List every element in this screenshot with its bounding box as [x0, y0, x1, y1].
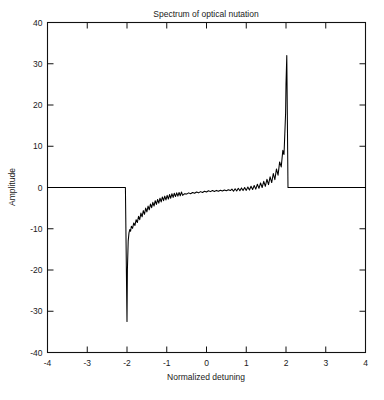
- figure-container: Spectrum of optical nutation -4-3-2-1012…: [0, 0, 384, 400]
- y-tick-label: -40: [30, 348, 43, 358]
- x-tick-label: 3: [323, 358, 328, 368]
- x-axis-label: Normalized detuning: [167, 372, 245, 382]
- x-tick-label: 4: [363, 358, 368, 368]
- y-tick-label: -20: [30, 265, 43, 275]
- x-tick-label: -2: [123, 358, 131, 368]
- chart-title: Spectrum of optical nutation: [153, 9, 259, 19]
- chart-background: [0, 0, 384, 400]
- y-tick-label: -10: [30, 224, 43, 234]
- x-tick-label: -1: [163, 358, 171, 368]
- y-tick-label: -30: [30, 306, 43, 316]
- y-tick-label: 10: [33, 141, 43, 151]
- y-axis-label: Amplitude: [7, 168, 17, 206]
- x-tick-label: -3: [83, 358, 91, 368]
- x-tick-label: 2: [284, 358, 289, 368]
- y-tick-label: 0: [38, 183, 43, 193]
- y-tick-label: 20: [33, 100, 43, 110]
- x-tick-label: 0: [204, 358, 209, 368]
- y-tick-label: 30: [33, 59, 43, 69]
- x-tick-label: -4: [44, 358, 52, 368]
- spectrum-line-chart: Spectrum of optical nutation -4-3-2-1012…: [0, 0, 384, 400]
- x-tick-label: 1: [244, 358, 249, 368]
- y-tick-label: 40: [33, 18, 43, 28]
